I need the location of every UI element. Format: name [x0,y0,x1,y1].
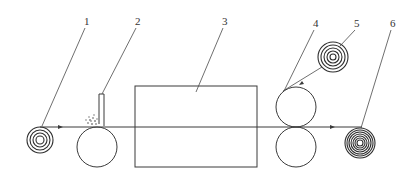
arrow-down-left-icon [299,81,304,85]
unwind-roll [27,127,53,153]
leader-line-3 [196,28,223,92]
callout-label-4: 4 [313,17,319,29]
arrow-right-icon [58,125,63,129]
leader-line-2 [102,28,136,94]
leader-line-1 [42,28,85,126]
nip-roller-lower [276,127,316,167]
laminate-film-path [283,67,322,91]
process-diagram: 1 2 3 4 5 6 [0,0,415,182]
coating-blade [99,94,104,126]
callout-label-2: 2 [135,15,141,27]
rewind-roll [345,128,375,158]
leader-line-6 [361,30,391,128]
coating-roller [77,127,117,167]
coating-material [85,114,98,125]
callout-label-6: 6 [390,17,396,29]
callout-label-1: 1 [84,15,90,27]
laminate-film-roll [318,42,348,72]
arrow-right-icon [330,125,335,129]
leader-line-5 [340,30,355,46]
callout-label-3: 3 [222,15,228,27]
leader-line-4 [284,30,314,91]
nip-roller-upper [276,87,316,127]
callout-label-5: 5 [354,17,360,29]
